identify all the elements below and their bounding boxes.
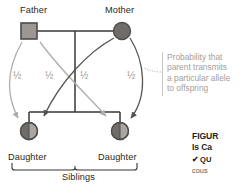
siblings-bracket [12,163,137,170]
callout-leader-line [144,68,161,72]
figure-caption: FIGUR Is Ca ✔QU cous [192,131,249,175]
probability-label-father-right: ½ [45,70,53,81]
caption-question-label: QU [200,155,211,164]
callout-line-3: a particular allele [167,73,249,83]
callout-line-4: to offspring [167,83,249,93]
callout-text: Probability that parent transmits a part… [167,52,249,94]
mother-symbol [114,23,131,40]
callout-line-2: parent transmits [167,62,249,72]
daughter-right-symbol [112,123,129,140]
daughter-left-symbol [21,123,38,140]
caption-title-line-1: FIGUR [192,131,249,142]
checkmark-icon: ✔ [192,155,199,164]
callout-rule [162,52,163,96]
arrow-mother-to-daughter-left [44,38,114,116]
siblings-label: Siblings [62,172,95,183]
caption-body-text: cous [192,166,249,175]
caption-question-line: ✔QU [192,155,249,164]
mother-label: Mother [105,5,134,16]
probability-label-father-left: ½ [13,70,21,81]
daughter-left-label: Daughter [8,152,47,163]
pedigree-figure: Father Mother Daughter Daughter Siblings… [0,0,249,187]
probability-label-mother-left: ½ [80,70,88,81]
caption-title-line-2: Is Ca [192,142,249,153]
callout-line-1: Probability that [167,52,249,62]
father-label: Father [20,5,47,16]
father-symbol [21,23,37,39]
probability-label-mother-right: ½ [127,70,135,81]
daughter-right-label: Daughter [98,152,137,163]
